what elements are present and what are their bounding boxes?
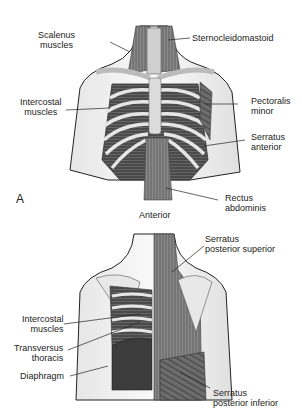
posterior-view bbox=[64, 234, 232, 400]
label-line-1: Pectoralis bbox=[251, 96, 291, 106]
label-line-1: Serratus bbox=[205, 234, 275, 244]
label-line-1: Intercostal bbox=[22, 314, 64, 324]
label-line-2: abdominis bbox=[225, 203, 266, 213]
label-line-1: Serratus bbox=[213, 388, 278, 398]
label-line-1: Intercostal bbox=[20, 97, 62, 107]
label-line-1: Rectus bbox=[225, 193, 266, 203]
label-line-2: minor bbox=[251, 106, 291, 116]
anterior-view bbox=[66, 26, 245, 200]
label-sternocleidomastoid: Sternocleidomastoid bbox=[192, 33, 274, 43]
label-serratus-posterior-inferior: Serratus posterior inferior bbox=[213, 388, 278, 408]
label-intercostal-muscles-a: Intercostal muscles bbox=[20, 97, 62, 117]
label-transversus-thoracis: Transversus thoracis bbox=[14, 343, 63, 363]
label-line-2: muscles bbox=[22, 324, 64, 334]
label-line-2: posterior inferior bbox=[213, 398, 278, 408]
label-pectoralis-minor: Pectoralis minor bbox=[251, 96, 291, 116]
panel-letter-a: A bbox=[16, 192, 24, 206]
label-serratus-posterior-superior: Serratus posterior superior bbox=[205, 234, 275, 254]
label-line-2: thoracis bbox=[14, 353, 63, 363]
label-intercostal-muscles-b: Intercostal muscles bbox=[22, 314, 64, 334]
label-diaphragm: Diaphragm bbox=[20, 371, 64, 381]
label-line-1: Scalenus bbox=[38, 30, 75, 40]
label-line-2: muscles bbox=[20, 107, 62, 117]
label-line-1: Transversus bbox=[14, 343, 63, 353]
label-line-2: anterior bbox=[251, 142, 285, 152]
anatomy-figure: Scalenus muscles Sternocleidomastoid Int… bbox=[0, 0, 302, 408]
label-rectus-abdominis: Rectus abdominis bbox=[225, 193, 266, 213]
label-serratus-anterior: Serratus anterior bbox=[251, 132, 285, 152]
caption-anterior: Anterior bbox=[139, 210, 171, 220]
label-scalenus-muscles: Scalenus muscles bbox=[38, 30, 75, 50]
label-line-2: posterior superior bbox=[205, 244, 275, 254]
label-line-1: Serratus bbox=[251, 132, 285, 142]
label-line-2: muscles bbox=[38, 40, 75, 50]
